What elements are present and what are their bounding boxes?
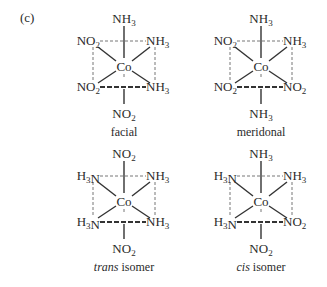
bond-lower-left (235, 71, 253, 83)
metal-center: Co (253, 194, 268, 209)
bond-upper-left (235, 182, 253, 196)
ligand-bottom: NO2 (112, 241, 135, 258)
isomer-trans: CoNO2NO2H3NNH3H3NNH3trans isomer (77, 146, 170, 274)
ligand-lower-left: H3N (214, 214, 238, 232)
bond-lower-left (98, 71, 116, 83)
bond-upper-right (132, 182, 150, 196)
bond-lower-left (98, 206, 116, 218)
ligand-lower-right: NH3 (146, 79, 170, 96)
ligand-upper-right: NH3 (283, 168, 307, 185)
bond-upper-left (98, 182, 116, 196)
bond-lower-left (235, 206, 253, 218)
metal-center: Co (253, 59, 268, 74)
ligand-upper-left: NO2 (214, 33, 237, 50)
octahedral-isomers-diagram: CoNH3NO2NO2NH3NO2NH3facial CoNH3NH3NO2NH… (0, 0, 327, 287)
bond-upper-right (132, 47, 150, 61)
ligand-lower-right: NO2 (283, 214, 306, 231)
isomer-caption: trans isomer (94, 260, 154, 274)
isomer-cis: CoNH3NO2H3NNH3H3NNO2cis isomer (214, 146, 307, 274)
isomer-caption: meridonal (237, 125, 286, 139)
ligand-top: NO2 (112, 146, 135, 163)
ligand-top: NH3 (249, 11, 273, 28)
bond-upper-left (235, 47, 253, 61)
ligand-bottom: NO2 (249, 241, 272, 258)
ligand-upper-left: H3N (214, 168, 238, 186)
isomer-caption: facial (111, 125, 138, 139)
ligand-lower-right: NO2 (283, 79, 306, 96)
ligand-top: NH3 (249, 146, 273, 163)
ligand-upper-left: NO2 (77, 33, 100, 50)
isomer-facial: CoNH3NO2NO2NH3NO2NH3facial (77, 11, 170, 139)
ligand-lower-left: NO2 (77, 79, 100, 96)
ligand-upper-left: H3N (77, 168, 101, 186)
ligand-bottom: NH3 (249, 106, 273, 123)
ligand-upper-right: NH3 (146, 33, 170, 50)
ligand-lower-right: NH3 (146, 214, 170, 231)
bond-upper-right (269, 182, 287, 196)
ligand-top: NH3 (112, 11, 136, 28)
ligand-lower-left: NO2 (214, 79, 237, 96)
isomer-meridonal: CoNH3NH3NO2NH3NO2NO2meridonal (214, 11, 307, 139)
isomer-caption: cis isomer (236, 260, 285, 274)
ligand-upper-right: NH3 (146, 168, 170, 185)
bond-upper-left (98, 47, 116, 61)
bond-upper-right (269, 47, 287, 61)
ligand-bottom: NO2 (112, 106, 135, 123)
ligand-upper-right: NH3 (283, 33, 307, 50)
metal-center: Co (116, 194, 131, 209)
ligand-lower-left: H3N (77, 214, 101, 232)
metal-center: Co (116, 59, 131, 74)
